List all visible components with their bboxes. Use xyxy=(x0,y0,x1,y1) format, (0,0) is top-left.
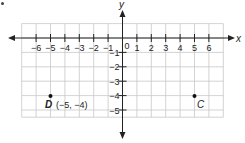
x-tick-label: −6 xyxy=(31,43,41,53)
point-c xyxy=(193,94,197,98)
y-tick-label: −3 xyxy=(109,77,119,87)
x-tick-label: −3 xyxy=(74,43,84,53)
coordinate-plane: −6−5−4−3−2−1123456−1−2−3−4−5 x y 0 D (−5… xyxy=(0,0,245,143)
x-tick-label: −2 xyxy=(89,43,99,53)
x-tick-label: 6 xyxy=(206,43,211,53)
point-c-label: C xyxy=(197,99,205,110)
axes xyxy=(8,10,235,139)
y-tick-label: −4 xyxy=(109,91,119,101)
x-tick-label: 1 xyxy=(134,43,139,53)
x-tick-label: 5 xyxy=(192,43,197,53)
point-d-label: D xyxy=(45,99,52,110)
point-d xyxy=(49,94,53,98)
y-axis-label: y xyxy=(118,0,125,10)
origin-label: 0 xyxy=(125,41,130,51)
y-tick-label: −5 xyxy=(109,106,119,116)
y-tick-label: −2 xyxy=(109,62,119,72)
x-tick-label: 3 xyxy=(163,43,168,53)
point-d-coordinates: (−5, −4) xyxy=(56,100,88,110)
x-tick-label: 2 xyxy=(149,43,154,53)
x-axis-label: x xyxy=(235,33,242,44)
x-tick-label: −5 xyxy=(45,43,55,53)
x-tick-label: −4 xyxy=(60,43,70,53)
y-tick-label: −1 xyxy=(109,48,119,58)
x-tick-label: 4 xyxy=(178,43,183,53)
